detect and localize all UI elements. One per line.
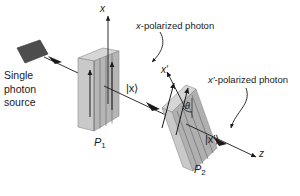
source-label: Single photon source	[4, 69, 36, 110]
angle-theta-label: θ	[185, 101, 190, 112]
axis-z-label: z	[259, 148, 264, 160]
polarizer-p1	[78, 48, 119, 131]
photon-source-icon	[17, 40, 48, 63]
axis-x-label: x	[100, 3, 105, 15]
polarizer-p1-label: P1	[94, 136, 106, 150]
source-label-line3: source	[4, 96, 36, 110]
callout-arrow-x-polarized	[152, 32, 163, 62]
ket-x-label: |x⟩	[126, 82, 138, 95]
polarizer-p2	[162, 83, 217, 171]
ket-x-prime-label: |x′⟩	[205, 133, 219, 146]
polarizer-p2-label: P2	[194, 163, 206, 177]
axis-x-prime-label: x′	[161, 64, 168, 76]
xprime-polarized-photon-text: -polarized photon	[215, 74, 288, 85]
polarizer-p1-subscript: 1	[101, 141, 105, 150]
source-label-line2: photon	[4, 83, 36, 97]
xprime-polarized-photon-label: x′-polarized photon	[208, 74, 288, 85]
source-label-line1: Single	[4, 69, 36, 83]
x-polarized-photon-label: x-polarized photon	[136, 20, 214, 31]
polarizer-p2-subscript: 2	[201, 168, 205, 177]
callout-arrow-xprime-polarized	[231, 88, 247, 128]
x-polarized-photon-text: -polarized photon	[141, 20, 214, 31]
figure-canvas: Single photon source x-polarized photon …	[0, 0, 300, 196]
